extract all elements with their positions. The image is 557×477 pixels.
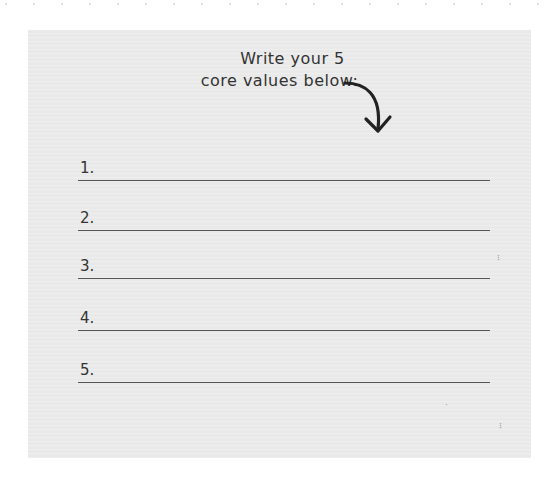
entry-underline xyxy=(78,278,490,279)
border-dot xyxy=(397,3,399,5)
border-dot xyxy=(89,3,91,5)
paper-smudge: · xyxy=(445,400,448,410)
paper-smudge: ⁝ xyxy=(497,252,500,262)
border-dot xyxy=(369,3,371,5)
border-dot xyxy=(313,3,315,5)
curved-arrow-down-icon xyxy=(342,77,394,139)
border-dot xyxy=(117,3,119,5)
border-dot xyxy=(229,3,231,5)
border-dot xyxy=(425,3,427,5)
value-entry-row[interactable]: 5. xyxy=(78,359,490,383)
border-dot xyxy=(285,3,287,5)
value-entry-row[interactable]: 1. xyxy=(78,157,490,181)
border-dot xyxy=(5,3,7,5)
border-dot xyxy=(537,3,539,5)
border-dot xyxy=(201,3,203,5)
worksheet-paper: Write your 5 core values below: 1. 2. 3.… xyxy=(28,30,531,458)
border-dot xyxy=(173,3,175,5)
entry-number: 1. xyxy=(80,159,94,177)
border-dot xyxy=(453,3,455,5)
border-dot xyxy=(33,3,35,5)
border-dot xyxy=(257,3,259,5)
value-entry-row[interactable]: 3. xyxy=(78,255,490,279)
entry-underline xyxy=(78,180,490,181)
entry-number: 4. xyxy=(80,309,94,327)
entry-number: 5. xyxy=(80,361,94,379)
border-dot xyxy=(145,3,147,5)
entry-underline xyxy=(78,230,490,231)
entry-number: 2. xyxy=(80,209,94,227)
entry-underline xyxy=(78,382,490,383)
top-dot-border xyxy=(0,3,557,9)
heading-line-1: Write your 5 xyxy=(28,48,531,70)
worksheet-heading: Write your 5 core values below: xyxy=(28,48,531,92)
value-entry-row[interactable]: 2. xyxy=(78,207,490,231)
entry-number: 3. xyxy=(80,257,94,275)
border-dot xyxy=(481,3,483,5)
border-dot xyxy=(341,3,343,5)
border-dot xyxy=(509,3,511,5)
border-dot xyxy=(61,3,63,5)
heading-line-2: core values below: xyxy=(28,70,531,92)
entry-underline xyxy=(78,330,490,331)
value-entry-row[interactable]: 4. xyxy=(78,307,490,331)
paper-smudge: ⁝ xyxy=(499,420,502,430)
